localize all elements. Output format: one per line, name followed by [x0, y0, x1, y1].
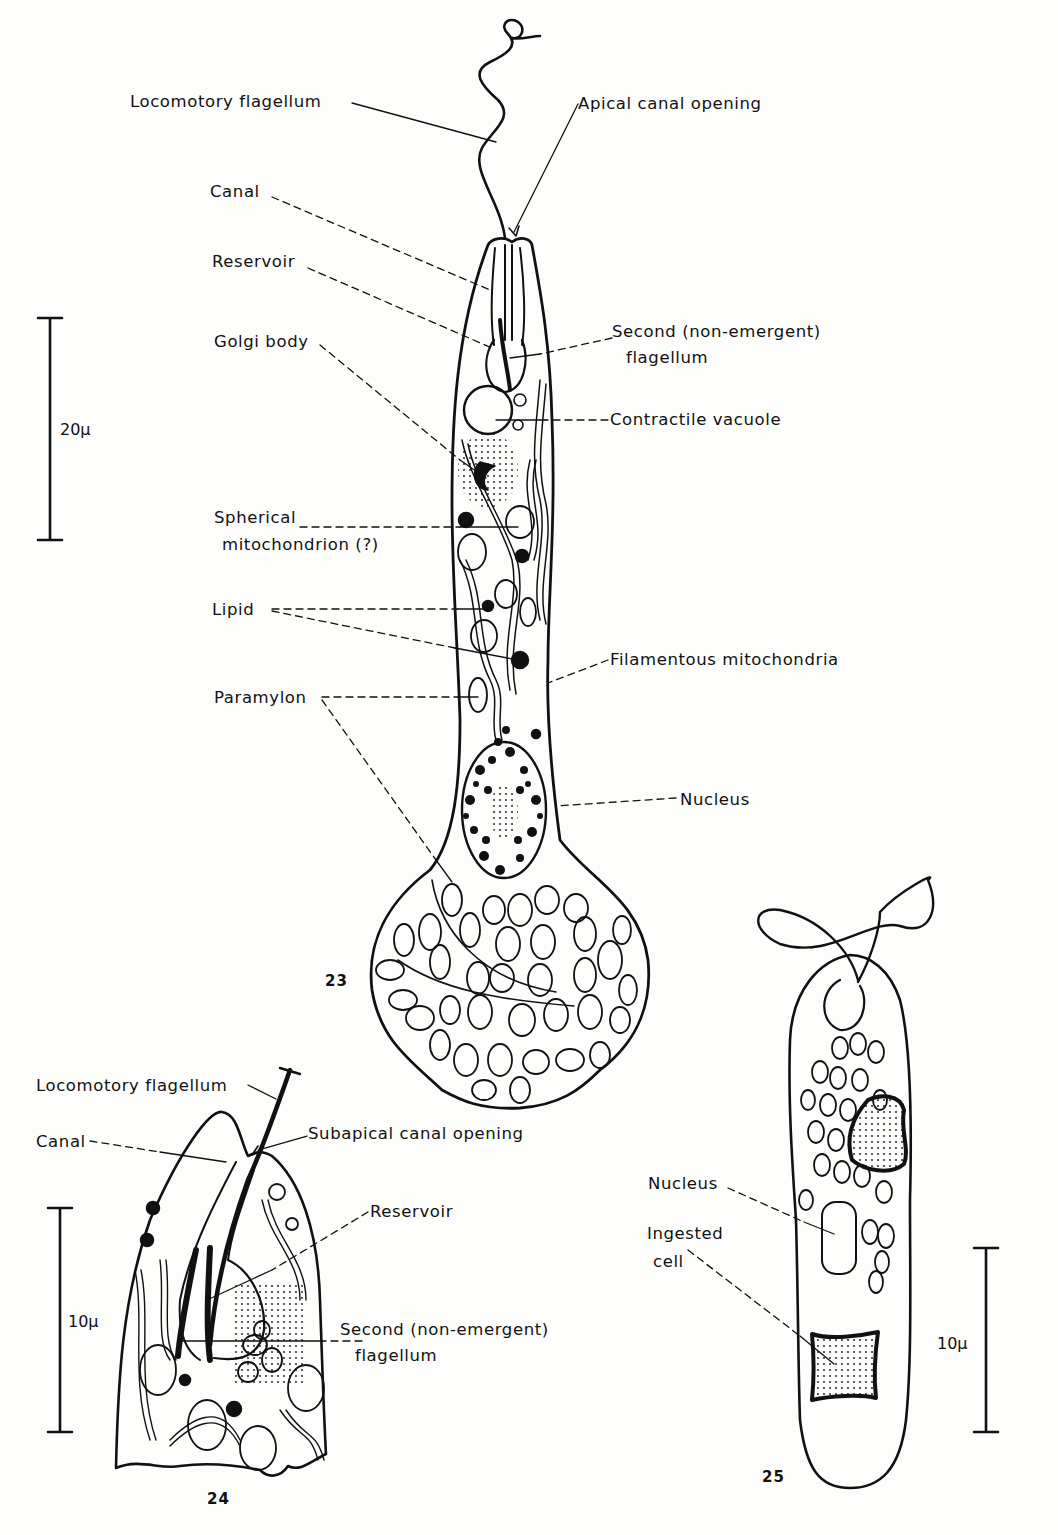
figure-23-cell — [371, 20, 649, 1108]
label-reservoir-24: Reservoir — [370, 1202, 453, 1222]
scale-bar-10-fig25 — [974, 1248, 998, 1432]
label-locomotory-flagellum-23: Locomotory flagellum — [130, 92, 322, 112]
label-locomotory-flagellum-24: Locomotory flagellum — [36, 1076, 228, 1096]
label-nucleus-25: Nucleus — [648, 1174, 718, 1194]
label-nucleus-23: Nucleus — [680, 790, 750, 810]
label-second-flagellum-24-line2: flagellum — [355, 1346, 437, 1366]
nucleus — [822, 1202, 856, 1274]
label-second-flagellum-24-line1: Second (non-emergent) — [340, 1320, 549, 1340]
lipid-droplet — [459, 513, 473, 527]
label-canal-24: Canal — [36, 1132, 86, 1152]
cell-outline — [789, 955, 910, 1488]
scale-bar-20 — [38, 318, 62, 540]
label-spherical-mitochondrion-line2: mitochondrion (?) — [222, 535, 379, 555]
label-reservoir-23: Reservoir — [212, 252, 295, 272]
label-second-flagellum-23-line1: Second (non-emergent) — [612, 322, 821, 342]
label-spherical-mitochondrion-line1: Spherical — [214, 508, 296, 528]
label-apical-canal-opening: Apical canal opening — [578, 94, 762, 114]
canal — [492, 245, 524, 345]
reservoir — [824, 980, 864, 1030]
label-paramylon: Paramylon — [214, 688, 307, 708]
label-ingested-cell-line2: cell — [653, 1252, 684, 1272]
label-ingested-cell-line1: Ingested — [647, 1224, 723, 1244]
scale-label-10-fig25: 10μ — [937, 1334, 968, 1353]
contractile-vacuole — [464, 386, 512, 434]
diagram-canvas — [0, 0, 1058, 1535]
label-lipid: Lipid — [212, 600, 254, 620]
figure-25-cell — [758, 877, 933, 1488]
scale-label-20: 20μ — [60, 420, 91, 439]
label-golgi-body: Golgi body — [214, 332, 309, 352]
ingested-cell-upper — [849, 1096, 906, 1170]
locomotory-flagellum — [479, 20, 540, 238]
figure-number-24: 24 — [207, 1490, 230, 1508]
label-canal-23: Canal — [210, 182, 260, 202]
second-flagellum — [178, 1248, 210, 1360]
figure-24-cell — [116, 1068, 326, 1476]
label-contractile-vacuole: Contractile vacuole — [610, 410, 781, 430]
locomotory-flagellum — [758, 877, 933, 982]
ingested-cell — [812, 1332, 878, 1400]
scale-label-10-fig24: 10μ — [68, 1312, 99, 1331]
figure-number-23: 23 — [325, 972, 348, 990]
label-filamentous-mitochondria: Filamentous mitochondria — [610, 650, 839, 670]
figure-number-25: 25 — [762, 1468, 785, 1486]
label-second-flagellum-23-line2: flagellum — [626, 348, 708, 368]
label-subapical-canal-opening: Subapical canal opening — [308, 1124, 524, 1144]
